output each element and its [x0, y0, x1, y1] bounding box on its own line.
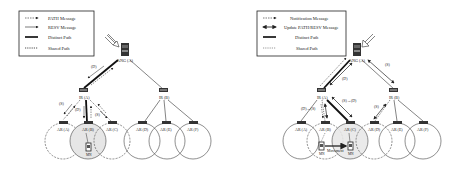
node-label: ANG (A): [117, 58, 134, 63]
node-label: IR (B): [389, 95, 400, 100]
right-diagram-canvas: Notification Message Update PATH/RESV Me…: [228, 0, 456, 180]
node-label: AR (A): [57, 127, 70, 132]
node-label: AR (E): [391, 127, 403, 132]
legend-label: Shared Path: [296, 46, 318, 51]
node-label: IR (B): [159, 95, 170, 100]
mobile-node-old-icon: MN: [319, 133, 325, 156]
node-label: ANG (A): [349, 58, 366, 63]
legend-label: RESV Message: [48, 25, 76, 30]
node-label: AR (B): [82, 127, 95, 132]
hollow-arrow-icon: [362, 34, 375, 47]
edge-label: (S)→(D): [342, 98, 357, 103]
edge-label: (S): [59, 101, 65, 106]
legend-label: Distinct Path: [48, 35, 72, 40]
edge-label: (D): [75, 107, 81, 112]
ang-node: ANG (A): [117, 43, 134, 63]
legend-label: Update PATH/RESV Message: [284, 25, 339, 30]
node-label: AR (F): [187, 127, 199, 132]
mn-label: MN: [86, 153, 92, 157]
node-label: AR (A): [295, 127, 308, 132]
ir-b-node: IR (B): [389, 88, 400, 100]
right-diagram: Notification Message Update PATH/RESV Me…: [228, 0, 456, 180]
edge-label: (D): [342, 76, 348, 81]
node-label: AR (C): [344, 127, 357, 132]
edge-label: (S): [385, 62, 391, 67]
ar-routers: [297, 121, 428, 124]
legend-label: PATH Message: [48, 16, 76, 21]
node-label: AR (C): [106, 127, 119, 132]
legend-label: Distinct Path: [295, 35, 319, 40]
node-label: AR (B): [319, 127, 332, 132]
node-label: AR (D): [136, 127, 149, 132]
edge-label: (S): [374, 104, 380, 109]
ir-b-node: IR (B): [159, 88, 170, 100]
legend-label: Notification Message: [290, 16, 329, 21]
node-label: AR (F): [417, 127, 429, 132]
node-label: IR (A): [317, 95, 328, 100]
left-diagram-canvas: PATH Message RESV Message Distinct Path …: [0, 0, 228, 180]
left-diagram: PATH Message RESV Message Distinct Path …: [0, 0, 228, 180]
ir-a-node: IR (A): [79, 88, 90, 100]
node-label: AR (D): [368, 127, 381, 132]
mn-label: MN: [319, 152, 325, 156]
edge-label: (D): [91, 64, 97, 69]
movement-label: Movement: [327, 149, 344, 153]
ar-routers: [59, 121, 198, 124]
node-label: AR (E): [160, 127, 172, 132]
node-label: IR (A): [79, 95, 90, 100]
edge-label: (S): [95, 112, 101, 117]
legend: Notification Message Update PATH/RESV Me…: [257, 11, 346, 56]
edge-label: (D)→(S): [301, 106, 316, 111]
legend: PATH Message RESV Message Distinct Path …: [19, 11, 94, 56]
ir-a-node: IR (A): [317, 88, 328, 100]
mn-label: MN: [348, 152, 354, 156]
hollow-arrow-icon: [105, 34, 119, 47]
legend-label: Shared Path: [48, 46, 70, 51]
ang-node: ANG (A): [349, 43, 366, 63]
